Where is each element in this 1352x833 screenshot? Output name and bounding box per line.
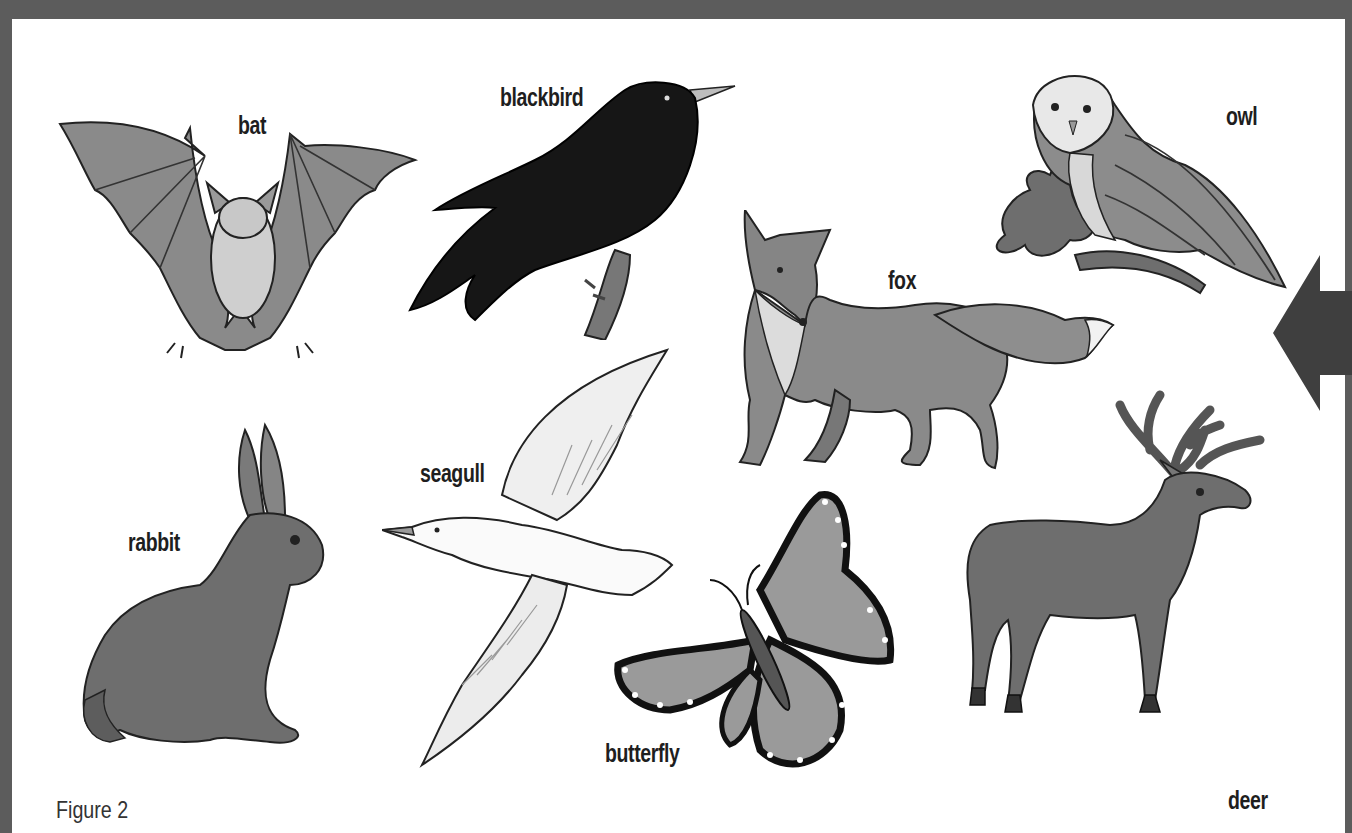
label-butterfly: butterfly: [605, 741, 679, 766]
butterfly-illustration: [610, 490, 900, 775]
label-fox: fox: [888, 268, 916, 293]
label-owl: owl: [1226, 104, 1257, 129]
label-bat: bat: [238, 113, 266, 138]
label-blackbird: blackbird: [500, 85, 583, 110]
label-rabbit: rabbit: [128, 530, 180, 555]
blackbird-illustration: [405, 80, 740, 340]
figure-caption: Figure 2: [56, 798, 128, 822]
label-seagull: seagull: [420, 461, 484, 486]
arrow-left-icon[interactable]: [1273, 255, 1352, 411]
bat-illustration: [55, 118, 420, 363]
rabbit-illustration: [80, 420, 330, 760]
deer-illustration: [960, 390, 1285, 775]
label-deer: deer: [1228, 788, 1268, 813]
